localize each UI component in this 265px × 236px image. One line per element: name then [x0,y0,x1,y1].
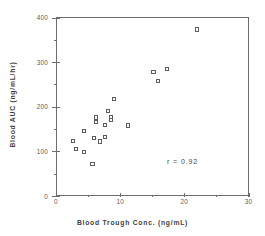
data-point-marker [112,97,116,101]
y-tick-inner [56,62,60,63]
x-tick-label: 0 [43,198,69,205]
plot-top-border [56,17,249,18]
correlation-annotation: r = 0.92 [167,158,198,165]
data-point-marker [94,115,98,119]
plot-right-border [248,17,249,197]
y-tick-label: 200 [18,103,48,110]
data-point-marker [71,139,75,143]
data-point-marker [126,123,130,127]
data-point-marker [74,147,78,151]
data-point-marker [156,79,160,83]
x-tick-label: 20 [171,198,197,205]
data-point-marker [98,139,102,143]
x-tick-label: 10 [107,198,133,205]
data-point-marker [109,118,113,122]
data-point-marker [90,162,94,166]
y-tick-minor [54,174,57,175]
data-point-marker [195,27,199,31]
x-tick-major [249,193,250,197]
data-point-marker [151,70,155,74]
y-tick-inner [56,18,60,19]
y-axis-title: Blood AUC (ng/mL/hr) [9,25,16,185]
x-tick-minor [216,195,217,198]
data-point-marker [103,135,107,139]
y-tick-label: 300 [18,59,48,66]
data-point-marker [82,129,86,133]
x-tick-minor [88,195,89,198]
x-tick-major [184,193,185,197]
y-tick-minor [54,129,57,130]
scatter-chart-figure: 01002003004000102030 r = 0.92 Blood Trou… [0,0,265,236]
data-point-marker [165,67,169,71]
x-tick-major [120,193,121,197]
y-tick-inner [56,107,60,108]
data-point-marker [106,109,110,113]
x-tick-major [56,193,57,197]
data-point-marker [92,136,96,140]
x-tick-label: 30 [236,198,262,205]
data-point-marker [82,150,86,154]
data-point-marker [94,120,98,124]
y-tick-inner [56,151,60,152]
y-tick-minor [54,84,57,85]
x-axis-title: Blood Trough Conc. (ng/mL) [0,219,265,226]
plot-area [56,18,249,196]
y-tick-label: 400 [18,14,48,21]
x-tick-minor [152,195,153,198]
data-point-marker [103,123,107,127]
y-tick-minor [54,40,57,41]
y-tick-label: 100 [18,148,48,155]
